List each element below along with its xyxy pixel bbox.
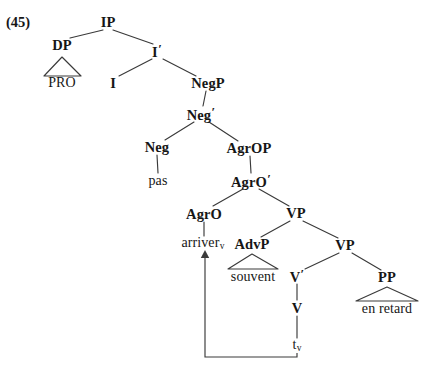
- ip-to-ibar: [113, 30, 153, 44]
- tree-node-agro-label: AgrO: [186, 206, 222, 222]
- tree-node-vp-upper: VP: [286, 206, 306, 221]
- tree-node-vbar: V′: [290, 267, 305, 284]
- tree-node-dp: DP: [52, 38, 72, 53]
- tree-node-arriver-label: arriver: [181, 235, 219, 250]
- tree-node-agrop-label: AgrOP: [227, 140, 272, 156]
- tree-node-agrobar: AgrO′: [231, 172, 271, 189]
- tree-node-souvent: souvent: [231, 270, 275, 284]
- tree-node-neg: Neg: [145, 140, 169, 155]
- tree-node-pas: pas: [149, 174, 168, 188]
- tree-node-negbar-label: Neg: [187, 107, 211, 123]
- tree-node-negp-label: NegP: [191, 75, 224, 91]
- tree-node-arriver: arriverv: [181, 236, 224, 252]
- tree-node-pp: PP: [378, 270, 396, 285]
- pp-triangle: [356, 287, 418, 301]
- bar-level-mark: ′: [212, 104, 216, 119]
- agrobar-to-vp-upper: [259, 189, 289, 206]
- tree-node-vbar-label: V: [290, 269, 301, 285]
- tree-node-advp-label: AdvP: [234, 236, 269, 252]
- tree-node-neg-label: Neg: [145, 139, 169, 155]
- ibar-to-negp: [163, 59, 196, 76]
- negp-to-negbar: [203, 91, 206, 106]
- bar-level-mark: ′: [267, 171, 271, 186]
- tree-node-vp-lower: VP: [335, 238, 355, 253]
- tree-node-pas-label: pas: [149, 173, 168, 188]
- ip-to-dp: [70, 30, 103, 38]
- tree-node-ip: IP: [101, 15, 116, 30]
- tree-node-agrobar-label: AgrO: [231, 174, 267, 190]
- negbar-to-neg: [165, 122, 194, 140]
- tree-node-vp-lower-label: VP: [335, 237, 355, 253]
- tree-node-ip-label: IP: [101, 14, 116, 30]
- tree-node-pp-label: PP: [378, 269, 396, 285]
- movement-arrow: [201, 250, 297, 357]
- figure-canvas: (45) IPDPPROI′INegPNeg′NegpasAgrOPAgrO′A…: [0, 0, 429, 371]
- branch-lines: [70, 30, 381, 338]
- negbar-to-agrop: [209, 122, 238, 141]
- tree-node-i-label: I: [110, 75, 116, 91]
- tree-node-dp-label: DP: [52, 37, 72, 53]
- ibar-to-i: [119, 59, 152, 76]
- tree-node-v: V: [292, 301, 303, 316]
- tree-node-negbar: Neg′: [187, 105, 216, 122]
- tree-node-v-label: V: [292, 300, 303, 316]
- index-subscript: v: [297, 343, 302, 353]
- tree-node-vp-upper-label: VP: [286, 205, 306, 221]
- tree-node-pro-label: PRO: [48, 75, 76, 90]
- tree-node-negp: NegP: [191, 76, 224, 91]
- agrobar-to-agro: [213, 189, 243, 206]
- tree-node-ibar-label: I: [152, 44, 158, 60]
- tree-node-agrop: AgrOP: [227, 141, 272, 156]
- dp-triangle: [44, 57, 81, 76]
- vp-upper-to-vp-lower: [303, 221, 338, 238]
- index-subscript: v: [220, 241, 225, 251]
- advp-triangle: [228, 254, 278, 269]
- agrop-to-agrobar: [250, 156, 251, 173]
- bar-level-mark: ′: [301, 266, 305, 281]
- tree-node-en-retard: en retard: [362, 302, 412, 316]
- tree-node-trace: tv: [292, 338, 301, 354]
- tree-node-i: I: [110, 76, 116, 91]
- tree-node-ibar: I′: [152, 42, 162, 59]
- tree-node-pro: PRO: [48, 76, 76, 90]
- tree-node-agro: AgrO: [186, 207, 222, 222]
- vp-lower-to-vbar: [305, 253, 339, 269]
- tree-node-advp: AdvP: [234, 237, 269, 252]
- neg-to-pas: [157, 155, 158, 173]
- vp-upper-to-advp: [261, 221, 290, 237]
- vp-lower-to-pp: [352, 253, 381, 270]
- bar-level-mark: ′: [158, 41, 162, 56]
- tree-node-en-retard-label: en retard: [362, 301, 412, 316]
- tree-node-souvent-label: souvent: [231, 269, 275, 284]
